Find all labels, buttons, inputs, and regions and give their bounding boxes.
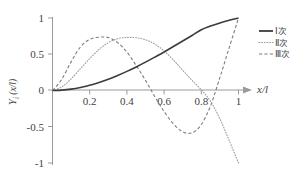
x-tick-label-1: 1 [236, 95, 242, 107]
x-axis-arrow-icon [243, 87, 252, 94]
y-tick-label-0: 0 [39, 84, 45, 96]
curve-third-order [53, 18, 239, 134]
y-axis-title: Yi (x/l) [6, 79, 21, 105]
y-axis-title-text: Yi (x/l) [6, 79, 21, 105]
x-tick-label-0point4: 0.4 [120, 95, 134, 107]
y-tick-label-1: 1 [39, 12, 45, 24]
x-tick-label-0point2: 0.2 [83, 95, 97, 107]
y-tick-label-minus0point5: -0.5 [27, 121, 45, 133]
x-tick-label-0point8: 0.8 [194, 95, 208, 107]
curve-first-order [53, 18, 239, 91]
y-axis-title-paren: (x/l) [8, 79, 19, 95]
legend-label-first-order: Ⅰ次 [275, 26, 287, 36]
legend: Ⅰ次 Ⅱ次 Ⅲ次 [259, 26, 290, 59]
legend-label-third-order: Ⅲ次 [275, 49, 290, 59]
x-axis-ticks [90, 90, 239, 95]
chart-container: 1 0.5 0 -0.5 -1 0.2 0.4 0.6 0.8 1 x/l Yi… [0, 0, 308, 180]
y-tick-label-0point5: 0.5 [30, 48, 44, 60]
mode-shape-line-chart: 1 0.5 0 -0.5 -1 0.2 0.4 0.6 0.8 1 x/l Yi… [0, 0, 308, 180]
y-axis-ticks [48, 18, 53, 163]
curve-second-order [53, 37, 239, 163]
y-tick-label-minus1: -1 [35, 157, 44, 169]
legend-label-second-order: Ⅱ次 [275, 38, 288, 48]
x-axis-title: x/l [256, 83, 268, 95]
